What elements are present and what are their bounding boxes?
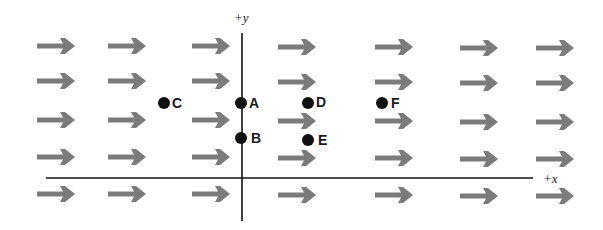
field-arrow-icon bbox=[375, 74, 413, 90]
point-f: F bbox=[376, 95, 400, 111]
field-arrow-icon bbox=[375, 39, 413, 55]
field-arrow-icon bbox=[37, 38, 75, 54]
field-arrow-icon bbox=[37, 186, 75, 202]
point-label: A bbox=[249, 95, 259, 111]
field-arrow-icon bbox=[278, 187, 316, 203]
field-arrow-icon bbox=[375, 150, 413, 166]
field-arrow-icon bbox=[460, 114, 498, 130]
field-arrow-icon bbox=[37, 149, 75, 165]
point-label: E bbox=[318, 132, 327, 148]
point-e: E bbox=[302, 132, 327, 148]
point-a: A bbox=[235, 95, 259, 111]
point-d: D bbox=[302, 94, 326, 110]
field-arrow-icon bbox=[536, 75, 574, 91]
y-axis-label: +y bbox=[234, 10, 249, 25]
field-arrow-icon bbox=[278, 150, 316, 166]
field-arrow-icon bbox=[278, 39, 316, 55]
field-arrow-icon bbox=[192, 186, 230, 202]
field-arrow-icon bbox=[375, 187, 413, 203]
point-b: B bbox=[235, 130, 261, 146]
field-arrow-icon bbox=[375, 113, 413, 129]
field-arrow-icon bbox=[108, 38, 146, 54]
field-arrow-icon bbox=[108, 73, 146, 89]
field-arrow-icon bbox=[192, 38, 230, 54]
point-label: B bbox=[251, 130, 261, 146]
field-arrow-icon bbox=[460, 40, 498, 56]
field-arrow-icon bbox=[192, 149, 230, 165]
field-arrow-icon bbox=[460, 75, 498, 91]
field-arrow-icon bbox=[192, 112, 230, 128]
x-axis-label: +x bbox=[543, 171, 558, 186]
field-arrow-icon bbox=[108, 186, 146, 202]
point-c: C bbox=[158, 95, 182, 111]
field-arrow-icon bbox=[108, 149, 146, 165]
field-arrow-icon bbox=[192, 73, 230, 89]
point-label: D bbox=[316, 94, 326, 110]
field-arrow-icon bbox=[536, 151, 574, 167]
point-dot-icon bbox=[235, 97, 247, 109]
field-arrow-icon bbox=[37, 73, 75, 89]
point-dot-icon bbox=[302, 97, 314, 109]
field-arrow-icon bbox=[460, 188, 498, 204]
field-arrow-icon bbox=[536, 114, 574, 130]
field-arrow-icon bbox=[278, 113, 316, 129]
point-dot-icon bbox=[376, 97, 388, 109]
point-dot-icon bbox=[158, 97, 170, 109]
field-arrow-icon bbox=[278, 74, 316, 90]
field-arrow-icon bbox=[37, 112, 75, 128]
point-dot-icon bbox=[302, 134, 314, 146]
field-arrow-icon bbox=[460, 151, 498, 167]
field-arrow-icon bbox=[536, 188, 574, 204]
point-label: F bbox=[391, 95, 400, 111]
point-label: C bbox=[172, 95, 182, 111]
field-arrows bbox=[37, 38, 574, 204]
vector-field-diagram: +x +y ABCDEF bbox=[0, 0, 603, 230]
point-dot-icon bbox=[235, 132, 247, 144]
coordinate-axes: +x +y bbox=[46, 10, 558, 221]
field-arrow-icon bbox=[108, 112, 146, 128]
field-arrow-icon bbox=[536, 40, 574, 56]
